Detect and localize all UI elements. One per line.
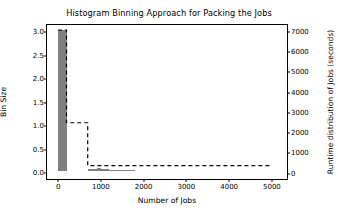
step-line-series <box>47 25 287 179</box>
y-axis-right-tick-label: 3000 <box>291 109 309 117</box>
y-axis-right-tick-mark <box>287 153 290 154</box>
x-axis-tick-label: 2000 <box>135 183 153 191</box>
y-axis-left-label: Bin Size <box>0 87 8 117</box>
y-axis-left-tick-label: 2.5 <box>33 52 44 60</box>
y-axis-left-tick-label: 0.0 <box>33 169 44 177</box>
x-axis-tick-mark <box>229 179 230 182</box>
y-axis-left-tick-mark <box>44 126 47 127</box>
x-axis-label: Number of Jobs <box>46 196 288 205</box>
y-axis-left-tick-mark <box>44 173 47 174</box>
y-axis-right-tick-label: 7000 <box>291 28 309 36</box>
y-axis-right-tick-label: 4000 <box>291 89 309 97</box>
y-axis-right-tick-mark <box>287 133 290 134</box>
y-axis-left-tick-label: 1.5 <box>33 99 44 107</box>
y-axis-right-tick-mark <box>287 52 290 53</box>
x-axis-tick-mark <box>100 179 101 182</box>
y-axis-left-tick-mark <box>44 32 47 33</box>
y-axis-right-tick-label: 6000 <box>291 48 309 56</box>
y-axis-left-tick-mark <box>44 55 47 56</box>
y-axis-right-tick-label: 0 <box>291 170 295 178</box>
y-axis-right-label: Runtime distribution of Jobs (seconds) <box>326 30 335 175</box>
chart-figure: Histogram Binning Approach for Packing t… <box>0 0 338 224</box>
x-axis-tick-label: 4000 <box>220 183 238 191</box>
x-axis-tick-mark <box>143 179 144 182</box>
y-axis-left-tick-label: 3.0 <box>33 28 44 36</box>
y-axis-right-tick-mark <box>287 32 290 33</box>
x-axis-tick-mark <box>58 179 59 182</box>
y-axis-left-tick-label: 0.5 <box>33 146 44 154</box>
y-axis-left-tick-mark <box>44 79 47 80</box>
y-axis-left-tick-label: 1.0 <box>33 122 44 130</box>
y-axis-right-tick-label: 5000 <box>291 68 309 76</box>
y-axis-right-tick-label: 2000 <box>291 129 309 137</box>
plot-clip <box>47 25 287 179</box>
y-axis-right-tick-mark <box>287 112 290 113</box>
x-axis-tick-mark <box>186 179 187 182</box>
y-axis-left-tick-label: 2.0 <box>33 75 44 83</box>
y-axis-right-tick-mark <box>287 72 290 73</box>
x-axis-tick-label: 5000 <box>263 183 281 191</box>
x-axis-tick-mark <box>271 179 272 182</box>
plot-area: 0.00.51.01.52.02.53.0 010002000300040005… <box>46 24 288 180</box>
x-axis-tick-label: 0 <box>56 183 60 191</box>
y-axis-right-tick-mark <box>287 173 290 174</box>
y-axis-left-tick-mark <box>44 102 47 103</box>
x-axis-tick-label: 3000 <box>177 183 195 191</box>
x-axis-tick-label: 1000 <box>92 183 110 191</box>
y-axis-left-tick-mark <box>44 149 47 150</box>
runtime-step-line <box>58 30 270 166</box>
y-axis-right-tick-mark <box>287 92 290 93</box>
chart-title: Histogram Binning Approach for Packing t… <box>0 8 338 18</box>
y-axis-right-tick-label: 1000 <box>291 149 309 157</box>
